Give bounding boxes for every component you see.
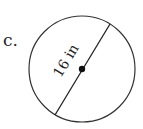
- diameter-label: 16 in: [50, 41, 82, 80]
- circle-diagram: 16 in: [0, 0, 143, 129]
- center-point: [79, 66, 85, 72]
